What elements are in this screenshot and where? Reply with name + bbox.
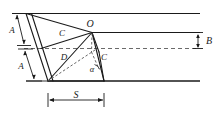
label-dim-s: S bbox=[74, 89, 79, 100]
dim-s-arrow-left bbox=[49, 98, 54, 102]
dim-b-arrow-top bbox=[196, 34, 200, 38]
dimension-a-upper bbox=[12, 14, 31, 46]
label-point-d: D bbox=[60, 52, 68, 62]
label-dim-a-lower: A bbox=[17, 61, 24, 71]
dim-a-upper-arrow-bottom bbox=[22, 40, 25, 44]
label-angle-alpha: α bbox=[90, 64, 95, 74]
edge-o-to-lower-c bbox=[92, 33, 99, 53]
band-guide-lines bbox=[26, 14, 200, 82]
edge-inner-left bbox=[32, 14, 54, 82]
geometry-canvas: O C C D α A A B S bbox=[0, 0, 220, 117]
label-dim-b: B bbox=[206, 35, 212, 46]
dashed-o-vertical bbox=[92, 33, 93, 52]
dim-a-upper-arrow-top bbox=[15, 15, 18, 19]
geometry-figure: O C C D α A A B S bbox=[0, 0, 220, 117]
dim-a-lower-line bbox=[25, 51, 34, 79]
dimension-b bbox=[193, 33, 203, 49]
dim-a-upper-line bbox=[17, 15, 24, 44]
dim-s-arrow-right bbox=[98, 98, 103, 102]
label-point-o: O bbox=[86, 18, 93, 29]
label-dim-a-upper: A bbox=[8, 25, 15, 35]
label-point-c-upper: C bbox=[59, 28, 66, 38]
dim-b-arrow-bottom bbox=[196, 44, 200, 48]
label-point-c-lower: C bbox=[101, 52, 108, 62]
